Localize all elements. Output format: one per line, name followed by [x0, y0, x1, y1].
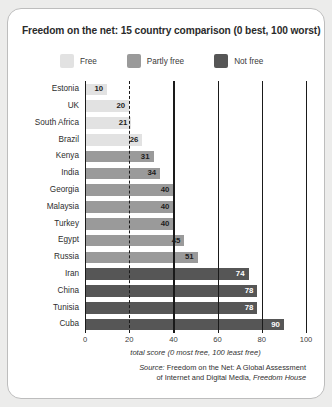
bar-row: South Africa21 — [85, 115, 306, 132]
bar: 26 — [85, 134, 142, 146]
legend-swatch-icon — [214, 54, 228, 68]
bar-row: UK20 — [85, 98, 306, 115]
bar-value-label: 40 — [161, 186, 170, 194]
bar-value-label: 31 — [141, 153, 150, 161]
legend-label: Free — [80, 57, 97, 66]
bar-row: Turkey40 — [85, 215, 306, 232]
category-label: South Africa — [35, 119, 79, 127]
legend-swatch-icon — [60, 54, 74, 68]
category-label: Kenya — [56, 152, 79, 160]
x-tick-label: 100 — [300, 335, 313, 344]
bar-row: Cuba90 — [85, 316, 306, 333]
bar-row: Malaysia40 — [85, 199, 306, 216]
x-axis-ticks: 020406080100 — [85, 333, 306, 347]
bar-row: Brazil26 — [85, 131, 306, 148]
legend-label: Not free — [234, 57, 263, 66]
bar-rows: Estonia10UK20South Africa21Brazil26Kenya… — [85, 81, 306, 333]
bar: 51 — [85, 252, 198, 264]
bar: 40 — [85, 184, 173, 196]
bar-value-label: 21 — [119, 119, 128, 127]
bar-row: Kenya31 — [85, 148, 306, 165]
bar: 34 — [85, 168, 160, 180]
bar-value-label: 40 — [161, 203, 170, 211]
category-label: Egypt — [58, 236, 79, 244]
bar: 45 — [85, 235, 184, 247]
bar-value-label: 26 — [130, 136, 139, 144]
bar-value-label: 90 — [271, 321, 280, 329]
bar-row: India34 — [85, 165, 306, 182]
bar: 40 — [85, 201, 173, 213]
chart-legend: FreePartly freeNot free — [60, 54, 263, 68]
source-note: Source: Freedom on the Net: A Global Ass… — [139, 363, 306, 384]
category-label: Iran — [65, 270, 79, 278]
bar: 74 — [85, 268, 249, 280]
screenshot-root: Freedom on the net: 15 country compariso… — [0, 0, 332, 407]
bar-value-label: 78 — [245, 304, 254, 312]
bar: 90 — [85, 319, 284, 331]
bar-value-label: 10 — [94, 85, 103, 93]
category-label: UK — [68, 102, 79, 110]
bar-row: China78 — [85, 283, 306, 300]
chart-card: Freedom on the net: 15 country compariso… — [7, 8, 325, 399]
category-label: Malaysia — [47, 203, 79, 211]
category-label: Estonia — [52, 85, 79, 93]
x-tick-label: 60 — [213, 335, 221, 344]
legend-item: Free — [60, 54, 97, 68]
bar: 21 — [85, 117, 131, 129]
bar: 31 — [85, 151, 154, 163]
x-tick-label: 40 — [169, 335, 177, 344]
bar-value-label: 45 — [172, 237, 181, 245]
source-line-2: of Internet and Digital Media, Freedom H… — [139, 373, 306, 384]
gridline-100 — [306, 81, 307, 333]
legend-item: Partly free — [127, 54, 184, 68]
legend-item: Not free — [214, 54, 263, 68]
legend-swatch-icon — [127, 54, 141, 68]
bar-row: Georgia40 — [85, 182, 306, 199]
bar-value-label: 20 — [117, 102, 126, 110]
bar-value-label: 74 — [236, 270, 245, 278]
category-label: Tunisia — [53, 304, 79, 312]
source-line-1-text: Freedom on the Net: A Global Assessment — [167, 363, 306, 372]
page-title: Freedom on the net: 15 country compariso… — [22, 25, 320, 36]
x-axis-label: total score (0 most free, 100 least free… — [85, 348, 306, 357]
category-label: Cuba — [59, 320, 79, 328]
x-tick-label: 80 — [258, 335, 266, 344]
bar: 78 — [85, 302, 257, 314]
bar-row: Tunisia78 — [85, 299, 306, 316]
legend-label: Partly free — [147, 57, 184, 66]
category-label: China — [58, 287, 79, 295]
category-label: India — [61, 169, 79, 177]
bar-value-label: 78 — [245, 287, 254, 295]
bar-row: Iran74 — [85, 266, 306, 283]
x-tick-label: 20 — [125, 335, 133, 344]
source-publisher: Freedom House — [253, 373, 306, 382]
bar: 40 — [85, 218, 173, 230]
category-label: Turkey — [54, 220, 79, 228]
bar-value-label: 40 — [161, 220, 170, 228]
source-line-1: Source: Freedom on the Net: A Global Ass… — [139, 363, 306, 374]
bar-value-label: 51 — [185, 253, 194, 261]
bar-row: Estonia10 — [85, 81, 306, 98]
bar: 10 — [85, 84, 107, 96]
source-line-2-text: of Internet and Digital Media, — [156, 373, 251, 382]
bar-value-label: 34 — [147, 169, 156, 177]
bar-row: Egypt45 — [85, 232, 306, 249]
category-label: Russia — [54, 253, 79, 261]
plot-area: Estonia10UK20South Africa21Brazil26Kenya… — [8, 81, 324, 357]
bar: 78 — [85, 285, 257, 297]
bar-row: Russia51 — [85, 249, 306, 266]
x-tick-label: 0 — [83, 335, 87, 344]
category-label: Georgia — [50, 186, 79, 194]
category-label: Brazil — [59, 136, 79, 144]
bar: 20 — [85, 100, 129, 112]
source-prefix: Source: — [139, 363, 164, 372]
